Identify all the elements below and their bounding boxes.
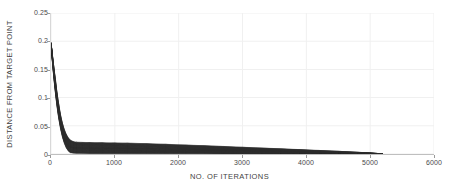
x-tick-label: 2000 [170,159,186,167]
x-tick-mark [242,155,243,158]
data-series-band [51,13,434,154]
x-axis-tick-labels: 0100020003000400050006000 [0,159,459,169]
x-axis-title: NO. OF ITERATIONS [0,172,459,182]
x-tick-mark [114,155,115,158]
x-tick-mark [370,155,371,158]
x-tick-mark [434,155,435,158]
x-tick-label: 6000 [426,159,442,167]
x-tick-label: 0 [48,159,52,167]
plot-area [50,13,434,155]
x-tick-mark [50,155,51,158]
convergence-chart: 00.050.10.150.20.25 01000200030004000500… [0,0,459,190]
x-tick-mark [178,155,179,158]
x-tick-label: 1000 [106,159,122,167]
y-axis-title: DISTANCE FROM TARGET POINT [5,20,15,147]
y-axis-title-wrapper: DISTANCE FROM TARGET POINT [3,13,17,155]
x-tick-label: 5000 [362,159,378,167]
x-tick-label: 3000 [234,159,250,167]
x-tick-label: 4000 [298,159,314,167]
x-tick-mark [306,155,307,158]
